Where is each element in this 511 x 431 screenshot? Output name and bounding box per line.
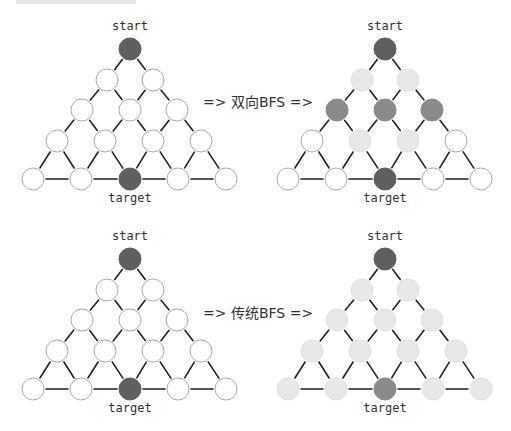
graph-node bbox=[119, 309, 141, 331]
graph-node bbox=[94, 130, 116, 152]
edge bbox=[370, 300, 377, 309]
edge bbox=[161, 300, 169, 310]
graph-node bbox=[349, 340, 371, 362]
edge bbox=[343, 152, 353, 168]
edge bbox=[113, 120, 122, 131]
edge bbox=[138, 330, 146, 340]
edge bbox=[393, 90, 400, 99]
edge bbox=[345, 120, 353, 130]
graph-node bbox=[301, 130, 323, 152]
edge bbox=[440, 362, 450, 378]
edge bbox=[416, 300, 424, 310]
edge bbox=[295, 152, 305, 168]
edge bbox=[160, 362, 171, 378]
target-node bbox=[119, 168, 141, 190]
edge bbox=[161, 90, 169, 100]
graph-panel-bidirectional-before: starttarget bbox=[22, 19, 237, 205]
graph-node bbox=[325, 378, 347, 400]
edge bbox=[370, 269, 378, 279]
edge bbox=[65, 330, 74, 341]
graph-node bbox=[22, 378, 44, 400]
edge bbox=[64, 152, 74, 168]
edge bbox=[138, 120, 146, 130]
target-node bbox=[374, 168, 396, 190]
edge bbox=[40, 152, 50, 168]
edge bbox=[160, 152, 171, 168]
edge bbox=[90, 120, 98, 130]
edge bbox=[393, 269, 401, 279]
edge bbox=[137, 362, 147, 378]
edge bbox=[415, 152, 426, 168]
start-label: start bbox=[367, 19, 403, 33]
edge bbox=[393, 59, 401, 69]
graph-node bbox=[397, 279, 419, 301]
edge bbox=[416, 330, 424, 340]
graph-node bbox=[142, 130, 164, 152]
graph-node bbox=[470, 168, 492, 190]
edge bbox=[368, 120, 377, 131]
graph-node bbox=[22, 168, 44, 190]
edge bbox=[115, 59, 123, 69]
edge bbox=[137, 152, 147, 168]
graph-node bbox=[445, 340, 467, 362]
nodes bbox=[22, 248, 237, 400]
edge bbox=[440, 120, 448, 130]
target-label: target bbox=[363, 401, 406, 415]
target-node bbox=[374, 378, 396, 400]
start-node bbox=[374, 38, 396, 60]
edge bbox=[65, 120, 74, 131]
edge bbox=[185, 330, 193, 340]
edge bbox=[90, 90, 98, 100]
graph-node bbox=[277, 168, 299, 190]
target-label: target bbox=[108, 401, 151, 415]
edge bbox=[393, 330, 401, 340]
graph-node bbox=[326, 309, 348, 331]
edge bbox=[393, 120, 401, 130]
edge bbox=[392, 152, 402, 168]
target-label: target bbox=[108, 191, 151, 205]
graph-node bbox=[397, 340, 419, 362]
graph-node bbox=[70, 168, 92, 190]
graph-node bbox=[470, 378, 492, 400]
graph-node bbox=[71, 309, 93, 331]
edge bbox=[138, 269, 146, 279]
edge bbox=[115, 90, 122, 99]
edge bbox=[295, 362, 305, 378]
edge bbox=[185, 152, 195, 168]
edge bbox=[161, 330, 169, 340]
graph-node bbox=[277, 378, 299, 400]
graph-node bbox=[166, 309, 188, 331]
graph-node bbox=[422, 378, 444, 400]
graph-node bbox=[374, 99, 396, 121]
start-node bbox=[119, 248, 141, 270]
graph-node bbox=[46, 130, 68, 152]
edge bbox=[112, 152, 123, 168]
graph-node bbox=[397, 69, 419, 91]
graph-node bbox=[142, 279, 164, 301]
start-node bbox=[119, 38, 141, 60]
edge bbox=[208, 152, 219, 168]
edge bbox=[88, 362, 98, 378]
edge bbox=[138, 90, 145, 99]
edge bbox=[416, 90, 424, 100]
graph-node bbox=[96, 69, 118, 91]
start-label: start bbox=[367, 229, 403, 243]
graph-node bbox=[46, 340, 68, 362]
edge bbox=[185, 120, 193, 130]
graph-panel-traditional-before: starttarget bbox=[22, 229, 237, 415]
graph-node bbox=[119, 99, 141, 121]
nodes bbox=[22, 38, 237, 190]
nodes bbox=[277, 38, 492, 190]
edge bbox=[319, 152, 329, 168]
edge bbox=[343, 362, 353, 378]
edge bbox=[440, 330, 448, 340]
edge bbox=[367, 152, 378, 168]
edge bbox=[90, 330, 98, 340]
edge bbox=[138, 300, 145, 309]
graph-node bbox=[215, 168, 237, 190]
graph-node bbox=[94, 340, 116, 362]
edge bbox=[463, 152, 474, 168]
graph-node bbox=[351, 69, 373, 91]
graph-node bbox=[421, 99, 443, 121]
graph-node bbox=[190, 130, 212, 152]
